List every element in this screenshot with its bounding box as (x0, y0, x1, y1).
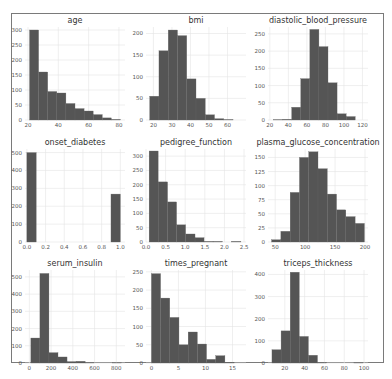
histogram-bar (290, 192, 299, 242)
x-tick-label: 60 (303, 122, 310, 128)
histogram-bar (168, 30, 177, 120)
x-tick-label: 40 (187, 122, 194, 128)
histogram-bar (197, 344, 206, 363)
y-tick-label: 50 (15, 102, 22, 108)
histogram-bar (111, 119, 120, 120)
x-tick-label: 0.0 (22, 244, 31, 250)
y-tick-label: 200 (133, 287, 144, 293)
histogram-serum-insulin: serum_insulin010020030040050002004006008… (12, 259, 126, 371)
y-tick-label: 250 (133, 269, 144, 275)
histogram-bar (196, 98, 205, 120)
histogram-bar (346, 117, 355, 120)
histogram-bar (151, 274, 160, 363)
histogram-bar (57, 93, 66, 120)
y-tick-label: 100 (12, 87, 23, 93)
histogram-bar (48, 92, 57, 121)
x-tick-label: 40 (301, 365, 308, 371)
histogram-pedigree-function: pedigree_function0501001502002503000.00.… (133, 138, 249, 250)
histogram-bar (204, 241, 213, 242)
y-tick-label: 300 (255, 294, 266, 300)
histogram-bar (355, 223, 364, 242)
histogram-bar (283, 119, 292, 120)
x-tick-label: 1.5 (200, 244, 209, 250)
panel-title: age (68, 16, 83, 25)
panel-title: times_pregnant (165, 259, 228, 268)
y-tick-label: 100 (133, 210, 144, 216)
x-tick-label: 100 (339, 122, 350, 128)
x-tick-label: 0.6 (79, 244, 88, 250)
histogram-bar (111, 194, 120, 242)
histogram-bar (27, 153, 36, 242)
histogram-bar (40, 273, 49, 363)
y-tick-label: 200 (255, 48, 266, 54)
histogram-bar (93, 115, 102, 120)
x-tick-label: 0.4 (60, 244, 69, 250)
histogram-bar (188, 332, 197, 363)
histogram-times-pregnant: times_pregnant050100150200250051015 (133, 259, 247, 371)
y-tick-label: 100 (255, 83, 266, 89)
y-tick-label: 500 (12, 274, 23, 280)
x-tick-label: 800 (111, 365, 122, 371)
y-tick-label: 0 (140, 117, 144, 123)
y-tick-label: 200 (12, 57, 23, 63)
histogram-bar (310, 29, 319, 120)
histogram-bar (205, 115, 214, 120)
histogram-bar (58, 357, 67, 363)
x-tick-label: 5 (177, 365, 181, 371)
x-tick-label: 80 (115, 122, 122, 128)
y-tick-label: 250 (12, 42, 23, 48)
x-tick-label: 100 (359, 365, 370, 371)
x-tick-label: 60 (321, 365, 328, 371)
y-tick-label: 50 (136, 225, 143, 231)
histogram-bar (177, 36, 186, 120)
histogram-bar (318, 169, 327, 242)
histogram-bar (272, 240, 281, 242)
histogram-bar (149, 151, 158, 242)
y-tick-label: 0 (140, 360, 144, 366)
y-tick-label: 125 (255, 169, 266, 175)
histogram-bar (309, 152, 318, 242)
histogram-bar (207, 359, 216, 363)
histogram-bar (337, 210, 346, 242)
histogram-bar (215, 119, 224, 120)
y-tick-label: 200 (12, 326, 23, 332)
y-tick-label: 150 (12, 72, 23, 78)
y-tick-label: 400 (255, 271, 266, 277)
histogram-bar (346, 217, 355, 242)
x-tick-label: 200 (46, 365, 57, 371)
panel-title: plasma_glucose_concentration (256, 138, 379, 147)
x-tick-label: 2.5 (240, 244, 249, 250)
x-tick-label: 50 (205, 122, 212, 128)
y-tick-label: 100 (133, 74, 144, 80)
histogram-bar (281, 231, 290, 242)
y-tick-label: 150 (133, 305, 144, 311)
y-tick-label: 0 (19, 117, 23, 123)
panel-title: onset_diabetes (45, 138, 106, 147)
histogram-bar (292, 107, 301, 120)
histogram-age: age05010015020025030020406080 (12, 16, 126, 128)
panel-title: triceps_thickness (283, 259, 352, 268)
y-tick-label: 25 (258, 225, 265, 231)
y-tick-label: 150 (255, 65, 266, 71)
x-tick-label: 120 (357, 122, 368, 128)
histogram-bar (272, 350, 281, 363)
x-tick-label: 0 (28, 365, 32, 371)
histogram-bar (179, 345, 188, 363)
histogram-bar (327, 194, 336, 242)
y-tick-label: 100 (12, 343, 23, 349)
histogram-bar (49, 353, 58, 363)
y-tick-label: 400 (12, 167, 23, 173)
y-tick-label: 300 (12, 308, 23, 314)
histogram-plasma-glucose-concentration: plasma_glucose_concentration025507510012… (255, 138, 380, 250)
histogram-bar (195, 238, 204, 242)
histogram-triceps-thickness: triceps_thickness01002003004002040608010… (255, 259, 370, 371)
panel-title: pedigree_function (160, 138, 232, 147)
x-tick-label: 10 (202, 365, 209, 371)
y-tick-label: 400 (12, 291, 23, 297)
y-tick-label: 200 (133, 182, 144, 188)
histogram-bar (299, 157, 308, 242)
histogram-bar (299, 336, 308, 363)
histogram-bar (177, 225, 186, 242)
x-tick-label: 0.5 (161, 244, 170, 250)
y-tick-label: 50 (258, 100, 265, 106)
